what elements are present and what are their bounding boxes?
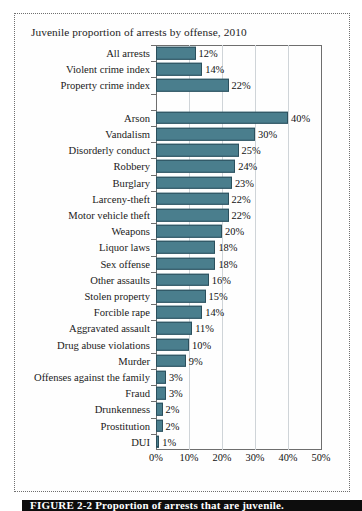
gridline-50 <box>321 45 322 450</box>
bar-row: Stolen property15% <box>15 288 321 304</box>
y-axis-tick <box>151 337 156 338</box>
bar-row: Prostitution2% <box>15 418 321 434</box>
bar <box>156 225 222 238</box>
bar <box>156 371 166 384</box>
y-axis-tick <box>151 61 156 62</box>
figure-frame: Juvenile proportion of arrests by offens… <box>14 13 350 492</box>
category-label: Robbery <box>114 161 156 172</box>
x-tick-label: 40% <box>278 452 297 463</box>
bar-row: Other assaults16% <box>15 272 321 288</box>
bar-row: Drug abuse violations10% <box>15 337 321 353</box>
y-axis-tick <box>151 401 156 402</box>
bar-value-label: 25% <box>242 145 261 156</box>
y-axis-tick <box>151 110 156 111</box>
bar-row: Murder9% <box>15 353 321 369</box>
bar <box>156 274 209 287</box>
bar-row: Motor vehicle theft22% <box>15 207 321 223</box>
y-axis-tick <box>151 256 156 257</box>
bar <box>156 338 189 351</box>
category-label: Aggravated assault <box>69 323 156 334</box>
category-label: Stolen property <box>84 291 156 302</box>
category-label: Larceny-theft <box>92 193 156 204</box>
category-label: Sex offense <box>100 258 156 269</box>
bar <box>156 128 255 141</box>
category-label: Drug abuse violations <box>57 339 156 350</box>
bar-value-label: 23% <box>235 177 254 188</box>
bar-row: Aggravated assault11% <box>15 320 321 336</box>
bar-row: Fraud3% <box>15 385 321 401</box>
category-label: All arrests <box>106 48 156 59</box>
bar <box>156 322 192 335</box>
y-axis-tick <box>151 239 156 240</box>
bar-value-label: 9% <box>189 355 203 366</box>
bar-row: DUI1% <box>15 434 321 450</box>
bar <box>156 387 166 400</box>
bar <box>156 355 186 368</box>
bar-row: Weapons20% <box>15 223 321 239</box>
y-axis-tick <box>151 126 156 127</box>
bar-value-label: 3% <box>169 372 183 383</box>
bar-value-label: 10% <box>192 339 211 350</box>
bar-row: Violent crime index14% <box>15 61 321 77</box>
y-axis-tick <box>151 207 156 208</box>
figure-caption-text: FIGURE 2-2 Proportion of arrests that ar… <box>30 500 284 511</box>
category-label: Property crime index <box>61 80 156 91</box>
bar <box>156 306 202 319</box>
bar-row: Vandalism30% <box>15 126 321 142</box>
y-axis-tick <box>151 418 156 419</box>
y-axis-tick <box>151 353 156 354</box>
figure-caption-bar: FIGURE 2-2 Proportion of arrests that ar… <box>22 500 362 511</box>
category-label: Other assaults <box>90 274 156 285</box>
chart-title: Juvenile proportion of arrests by offens… <box>31 26 247 38</box>
bar-row: Forcible rape14% <box>15 304 321 320</box>
y-axis-tick <box>151 191 156 192</box>
bar <box>156 160 235 173</box>
bar-value-label: 16% <box>212 274 231 285</box>
x-tick-label: 30% <box>245 452 264 463</box>
y-axis-tick <box>151 272 156 273</box>
bar-value-label: 2% <box>166 404 180 415</box>
bar-row: Robbery24% <box>15 158 321 174</box>
bar <box>156 63 202 76</box>
bar-row: Larceny-theft22% <box>15 191 321 207</box>
bar <box>156 176 232 189</box>
bar-value-label: 3% <box>169 388 183 399</box>
x-tick-label: 50% <box>311 452 330 463</box>
spacer-row <box>15 94 321 110</box>
bar-value-label: 20% <box>225 226 244 237</box>
bar-row: Sex offense18% <box>15 256 321 272</box>
y-axis-tick <box>151 223 156 224</box>
category-label: Arson <box>124 112 156 123</box>
bar-value-label: 22% <box>232 210 251 221</box>
y-axis-tick <box>151 369 156 370</box>
bar-row: Property crime index22% <box>15 77 321 93</box>
bar-value-label: 12% <box>199 48 218 59</box>
bar-row: Burglary23% <box>15 175 321 191</box>
bar-value-label: 15% <box>209 291 228 302</box>
bar-row: Drunkenness2% <box>15 401 321 417</box>
y-axis-tick <box>151 158 156 159</box>
y-axis-tick <box>151 142 156 143</box>
bar-value-label: 1% <box>162 436 176 447</box>
y-axis-tick <box>151 175 156 176</box>
bar-value-label: 40% <box>291 112 310 123</box>
bar-value-label: 24% <box>238 161 257 172</box>
category-label: Liquor laws <box>99 242 156 253</box>
bar-row: Arson40% <box>15 110 321 126</box>
y-axis-tick <box>151 77 156 78</box>
y-axis-tick <box>151 320 156 321</box>
bar <box>156 241 215 254</box>
bar <box>156 436 159 449</box>
plot-area: All arrests12%Violent crime index14%Prop… <box>156 45 321 450</box>
category-label: Burglary <box>113 177 156 188</box>
bar <box>156 403 163 416</box>
bar <box>156 112 288 125</box>
category-label: Drunkenness <box>95 404 156 415</box>
category-label: Violent crime index <box>66 64 156 75</box>
y-axis-tick <box>151 288 156 289</box>
category-label: Disorderly conduct <box>69 145 157 156</box>
bar-value-label: 22% <box>232 80 251 91</box>
y-axis-tick <box>151 434 156 435</box>
y-axis-tick <box>151 45 156 46</box>
bar-value-label: 18% <box>218 258 237 269</box>
